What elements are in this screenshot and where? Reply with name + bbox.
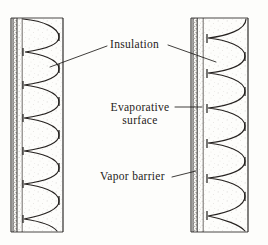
- label-vapor-barrier: Vapor barrier: [100, 170, 165, 183]
- right-vapor-barrier-band: [193, 18, 197, 232]
- left-evaporative-surface-band: [18, 18, 22, 232]
- label-insulation: Insulation: [110, 38, 159, 51]
- right-evaporative-surface-band: [199, 18, 203, 232]
- right-wall-cavity: [203, 18, 248, 232]
- left-wall-cavity: [22, 18, 63, 232]
- label-evaporative-line1: Evaporative: [111, 101, 170, 113]
- figure-page: Insulation Evaporativesurface Vapor barr…: [0, 0, 268, 245]
- label-evaporative-surface: Evaporativesurface: [103, 101, 177, 127]
- left-vapor-barrier-band: [13, 18, 17, 232]
- right-wall-assembly: [191, 18, 248, 232]
- label-evaporative-line2: surface: [122, 114, 157, 126]
- leader-vapor-right: [172, 171, 196, 177]
- left-wall-assembly: [11, 18, 63, 232]
